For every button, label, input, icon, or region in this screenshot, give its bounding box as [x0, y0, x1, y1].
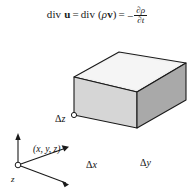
diagram-area: Δz Δx Δy (x, y, z) z y x — [0, 36, 194, 196]
delta-variable-z: z — [61, 113, 65, 124]
figure-panel: divu=div(ρv)=−∂ρ∂t — [0, 0, 194, 196]
corner-point-marker — [71, 112, 76, 117]
y-axis-arrowhead — [62, 145, 69, 151]
fraction-denominator: ∂t — [134, 16, 147, 25]
label-delta-x: Δx — [86, 160, 97, 170]
label-delta-y: Δy — [140, 158, 151, 168]
x-axis-arrowhead — [62, 181, 69, 187]
axis-arrowheads — [15, 133, 69, 187]
label-corner-point: (x, y, z) — [33, 145, 60, 155]
equals-sign-1: = — [70, 8, 80, 20]
z-axis-arrowhead — [15, 133, 20, 140]
div-operator-lhs: div — [47, 8, 61, 20]
label-axis-z: z — [11, 175, 15, 184]
box-and-axes-svg — [0, 36, 194, 196]
label-delta-z: Δz — [55, 114, 65, 124]
delta-variable-y: y — [146, 157, 150, 168]
div-operator-rhs: div — [81, 8, 95, 20]
x-axis-line — [18, 165, 66, 183]
equals-sign-2: = — [117, 8, 127, 20]
delta-variable-x: x — [92, 159, 96, 170]
minus-sign: − — [127, 10, 134, 22]
partial-derivative-fraction: ∂ρ∂t — [134, 6, 147, 26]
label-axis-y: y — [63, 195, 67, 196]
equation-caption: divu=div(ρv)=−∂ρ∂t — [0, 6, 194, 26]
origin-marker — [15, 162, 21, 168]
control-volume-box — [74, 52, 186, 128]
